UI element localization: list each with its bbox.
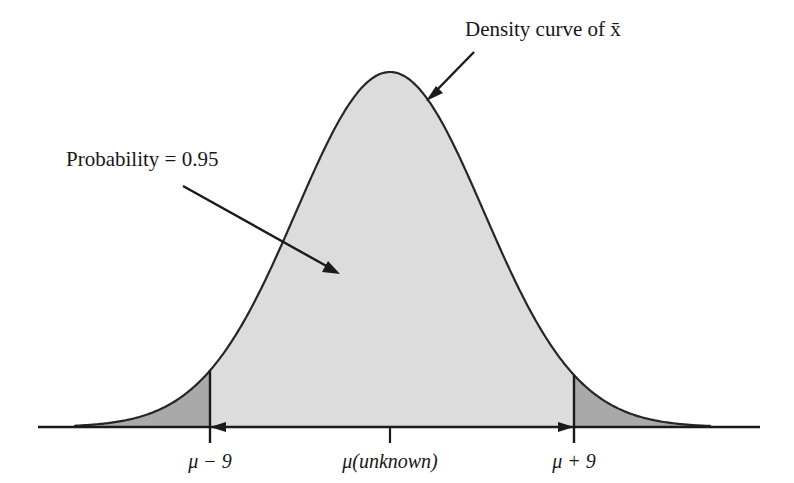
right-tail-shaded-region xyxy=(574,375,710,427)
central-shaded-region xyxy=(210,72,574,427)
axis-label-center: μ(unknown) xyxy=(341,450,438,473)
density-curve-label: Density curve of x̄ xyxy=(465,17,621,41)
probability-label: Probability = 0.95 xyxy=(66,147,218,171)
density-curve-leader-shaft xyxy=(434,52,474,93)
density-curve-leader-arrow xyxy=(426,52,474,101)
axis-label-lower-bound: μ − 9 xyxy=(187,450,232,473)
density-curve-figure: Density curve of x̄ Probability = 0.95 μ… xyxy=(0,0,794,483)
figure-canvas: Density curve of x̄ Probability = 0.95 μ… xyxy=(0,0,794,483)
density-curve-leader-arrowhead xyxy=(426,86,443,101)
left-tail-shaded-region xyxy=(75,371,210,427)
axis-label-upper-bound: μ + 9 xyxy=(551,450,596,473)
